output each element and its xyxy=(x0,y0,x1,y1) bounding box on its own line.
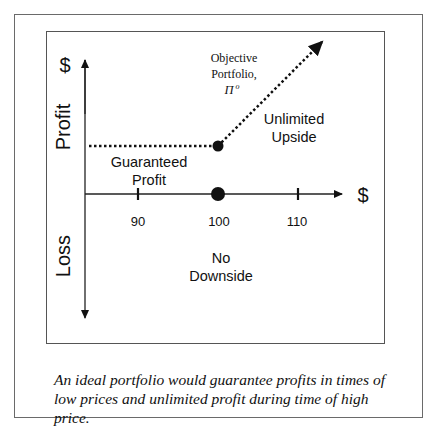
objective-symbol: Πo xyxy=(223,82,239,97)
tick-label-100: 100 xyxy=(208,214,230,229)
upside-label-1: Unlimited xyxy=(264,111,324,127)
loss-axis-label: Loss xyxy=(52,235,74,277)
objective-label-2: Portfolio, xyxy=(211,67,257,81)
downside-label-2: Downside xyxy=(189,268,253,284)
downside-label-1: No xyxy=(212,250,231,266)
x-axis xyxy=(85,187,342,201)
x-currency-label: $ xyxy=(357,184,368,206)
tick-label-110: 110 xyxy=(287,214,308,229)
y-currency-label: $ xyxy=(59,54,70,76)
figure-caption: An ideal portfolio would guarantee profi… xyxy=(54,370,404,427)
strike-marker xyxy=(211,187,225,201)
tick-label-90: 90 xyxy=(131,214,145,229)
payoff-diagram: $ Profit Loss $ 90 100 110 Guaranteed Pr… xyxy=(0,0,435,432)
profit-axis-label: Profit xyxy=(52,103,74,150)
guaranteed-label-1: Guaranteed xyxy=(111,154,188,170)
kink-marker xyxy=(213,141,224,152)
upside-label-2: Upside xyxy=(271,129,316,145)
objective-label-1: Objective xyxy=(211,51,258,65)
guaranteed-label-2: Profit xyxy=(132,172,166,188)
